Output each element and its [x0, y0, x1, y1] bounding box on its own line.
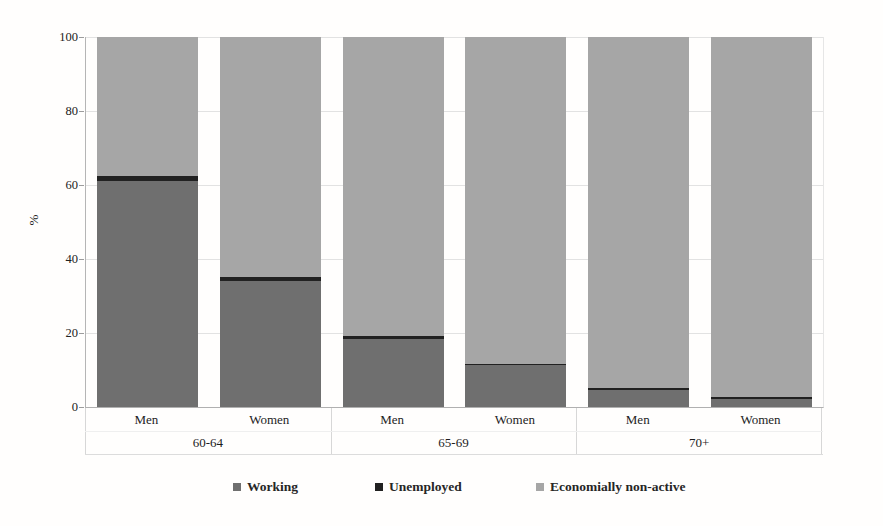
category-axis: MenWomenMenWomenMenWomen60-6465-6970+ — [85, 408, 823, 455]
legend-swatch-working — [233, 483, 241, 491]
category-label-men-65-69: Men — [331, 412, 454, 430]
segment-working-women-70 — [711, 399, 812, 407]
category-label-women-70: Women — [699, 412, 822, 430]
legend-label-economially-non-active: Economially non-active — [550, 479, 685, 495]
bar-men-65-69 — [343, 37, 444, 407]
category-label-men-60-64: Men — [85, 412, 208, 430]
segment-working-women-60-64 — [220, 281, 321, 407]
legend-swatch-unemployed — [375, 483, 383, 491]
y-tick-label-80: 80 — [40, 103, 78, 119]
group-label-65-69: 65-69 — [331, 435, 577, 453]
y-tick-0 — [79, 407, 84, 408]
group-label-60-64: 60-64 — [85, 435, 331, 453]
segment-economially-non-active-men-65-69 — [343, 37, 444, 336]
plot-area — [85, 37, 824, 408]
bar-women-60-64 — [220, 37, 321, 407]
category-label-women-65-69: Women — [454, 412, 577, 430]
group-label-70: 70+ — [576, 435, 822, 453]
y-tick-20 — [79, 333, 84, 334]
y-tick-label-60: 60 — [40, 177, 78, 193]
bar-women-70 — [711, 37, 812, 407]
legend-item-working: Working — [233, 479, 298, 495]
y-tick-label-40: 40 — [40, 251, 78, 267]
y-tick-label-20: 20 — [40, 325, 78, 341]
legend-label-unemployed: Unemployed — [389, 479, 462, 495]
y-tick-label-0: 0 — [40, 399, 78, 415]
segment-economially-non-active-men-60-64 — [97, 37, 198, 176]
legend: WorkingUnemployedEconomially non-active — [0, 479, 883, 501]
bar-men-60-64 — [97, 37, 198, 407]
y-tick-40 — [79, 259, 84, 260]
bar-women-65-69 — [465, 37, 566, 407]
segment-economially-non-active-men-70 — [588, 37, 689, 388]
segment-working-men-65-69 — [343, 339, 444, 407]
category-row-divider — [85, 431, 823, 432]
segment-economially-non-active-women-70 — [711, 37, 812, 397]
category-label-men-70: Men — [576, 412, 699, 430]
chart-figure: % 020406080100 MenWomenMenWomenMenWomen6… — [0, 0, 883, 526]
segment-working-women-65-69 — [465, 365, 566, 407]
legend-item-unemployed: Unemployed — [375, 479, 462, 495]
y-tick-label-100: 100 — [40, 29, 78, 45]
y-tick-80 — [79, 111, 84, 112]
category-axis-bottom-line — [85, 454, 823, 455]
segment-working-men-60-64 — [97, 181, 198, 407]
y-tick-100 — [79, 37, 84, 38]
bar-men-70 — [588, 37, 689, 407]
legend-item-economially-non-active: Economially non-active — [536, 479, 685, 495]
legend-swatch-economially-non-active — [536, 483, 544, 491]
category-label-women-60-64: Women — [208, 412, 331, 430]
legend-label-working: Working — [247, 479, 298, 495]
segment-economially-non-active-women-60-64 — [220, 37, 321, 277]
segment-working-men-70 — [588, 390, 689, 407]
y-axis-title: % — [26, 206, 50, 234]
y-tick-60 — [79, 185, 84, 186]
segment-economially-non-active-women-65-69 — [465, 37, 566, 364]
